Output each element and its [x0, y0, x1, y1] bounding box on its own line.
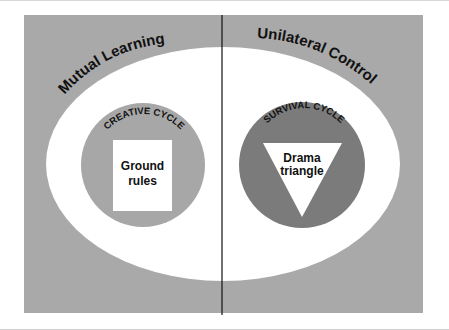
ground-rules-label-line2: rules	[128, 174, 157, 188]
ground-rules-label-line1: Ground	[121, 159, 164, 173]
mutual-learning-vs-unilateral-control-diagram: Mutual Learning Unilateral Control CREAT…	[0, 0, 449, 330]
drama-triangle-label-line2: triangle	[280, 164, 324, 178]
drama-triangle-label-line1: Drama	[283, 151, 321, 165]
